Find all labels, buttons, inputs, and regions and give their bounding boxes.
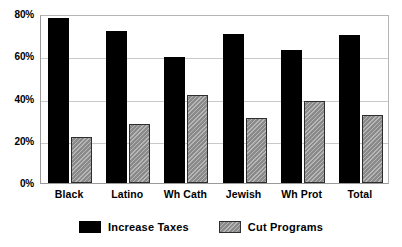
bar-group-jewish	[216, 16, 274, 183]
bar-wh-prot-increase-taxes	[281, 50, 302, 183]
y-axis-tick-20: 20%	[15, 137, 34, 147]
bar-series-container	[41, 16, 388, 183]
bar-group-wh-prot	[274, 16, 332, 183]
x-axis-label-latino: Latino	[111, 187, 143, 201]
bar-wh-cath-cut-programs	[187, 95, 208, 183]
x-axis-label-black: Black	[55, 187, 84, 201]
y-axis-tick-labels: 0%20%40%60%80%	[0, 0, 38, 247]
legend-label-cut: Cut Programs	[248, 221, 323, 233]
bar-latino-increase-taxes	[106, 31, 127, 183]
bar-wh-prot-cut-programs	[304, 101, 325, 183]
y-axis-tick-60: 60%	[15, 52, 34, 62]
chart-legend: Increase TaxesCut Programs	[0, 216, 402, 238]
bar-jewish-increase-taxes	[223, 34, 244, 183]
y-axis-tick-80: 80%	[15, 10, 34, 20]
bar-group-latino	[99, 16, 157, 183]
y-axis-tick-0: 0%	[20, 179, 34, 189]
bar-chart: 0%20%40%60%80% BlackLatinoWh CathJewishW…	[0, 0, 402, 247]
legend-label-increase: Increase Taxes	[108, 221, 189, 233]
plot-area	[40, 15, 389, 184]
bar-group-black	[41, 16, 99, 183]
legend-swatch-increase	[79, 221, 101, 233]
legend-item-cut-programs: Cut Programs	[219, 221, 323, 233]
bar-group-total	[332, 16, 390, 183]
bar-latino-cut-programs	[129, 124, 150, 183]
legend-item-increase-taxes: Increase Taxes	[79, 221, 189, 233]
x-axis-label-wh-prot: Wh Prot	[281, 187, 322, 201]
x-axis-label-jewish: Jewish	[226, 187, 262, 201]
x-axis-label-total: Total	[348, 187, 373, 201]
legend-swatch-cut	[219, 221, 241, 233]
bar-group-wh-cath	[157, 16, 215, 183]
bar-black-increase-taxes	[48, 18, 69, 183]
y-axis-tick-40: 40%	[15, 95, 34, 105]
bar-wh-cath-increase-taxes	[164, 57, 185, 183]
bar-black-cut-programs	[71, 137, 92, 183]
bar-total-cut-programs	[362, 115, 383, 183]
x-axis-label-wh-cath: Wh Cath	[164, 187, 207, 201]
x-axis-category-labels: BlackLatinoWh CathJewishWh ProtTotal	[40, 187, 389, 203]
bar-jewish-cut-programs	[246, 118, 267, 183]
bar-total-increase-taxes	[339, 35, 360, 183]
